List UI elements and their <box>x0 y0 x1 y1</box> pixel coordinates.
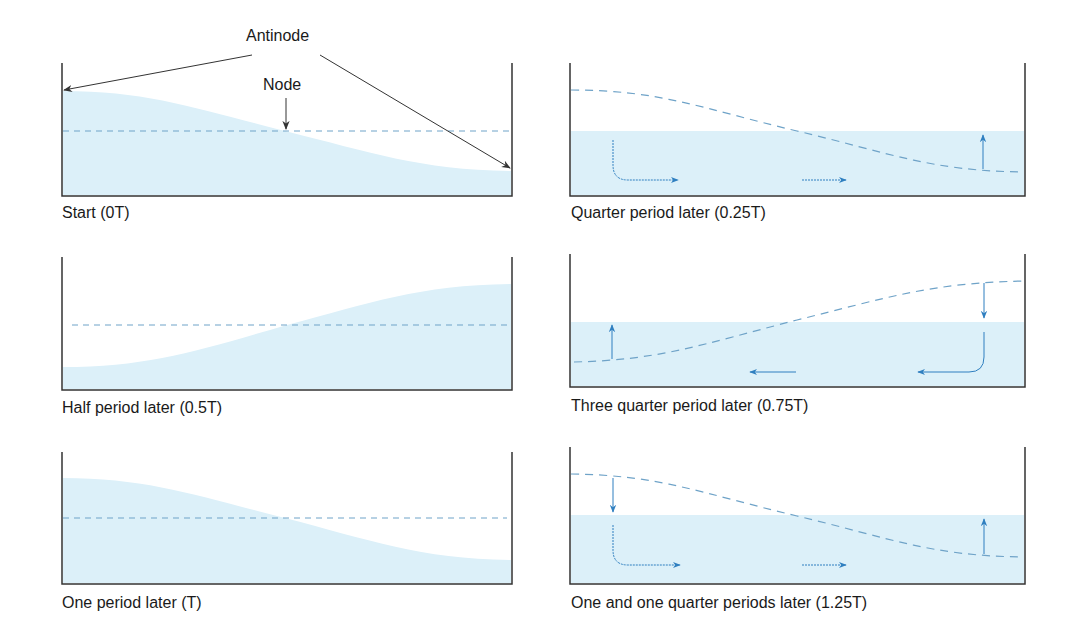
panel-label-half: Half period later (0.5T) <box>62 399 222 417</box>
panel-one-period <box>62 452 512 584</box>
panel-label-one-and-quarter: One and one quarter periods later (1.25T… <box>571 594 867 612</box>
panel-half <box>62 257 512 390</box>
panel-one-and-quarter <box>570 447 1025 584</box>
water-surface <box>571 131 1024 195</box>
seiche-diagram <box>0 0 1073 637</box>
antinode-pointer-left <box>64 55 252 90</box>
water-surface <box>63 478 511 583</box>
panel-quarter <box>570 63 1025 196</box>
water-surface <box>571 322 1024 386</box>
panel-label-three-quarter: Three quarter period later (0.75T) <box>571 397 808 415</box>
antinode-label: Antinode <box>246 27 309 45</box>
panel-three-quarter <box>570 254 1025 387</box>
water-surface <box>571 515 1024 583</box>
panel-label-start: Start (0T) <box>62 204 130 222</box>
panel-label-one-period: One period later (T) <box>62 594 202 612</box>
water-surface <box>63 91 511 195</box>
node-label: Node <box>263 76 301 94</box>
panel-label-quarter: Quarter period later (0.25T) <box>571 204 766 222</box>
water-surface <box>63 284 511 389</box>
